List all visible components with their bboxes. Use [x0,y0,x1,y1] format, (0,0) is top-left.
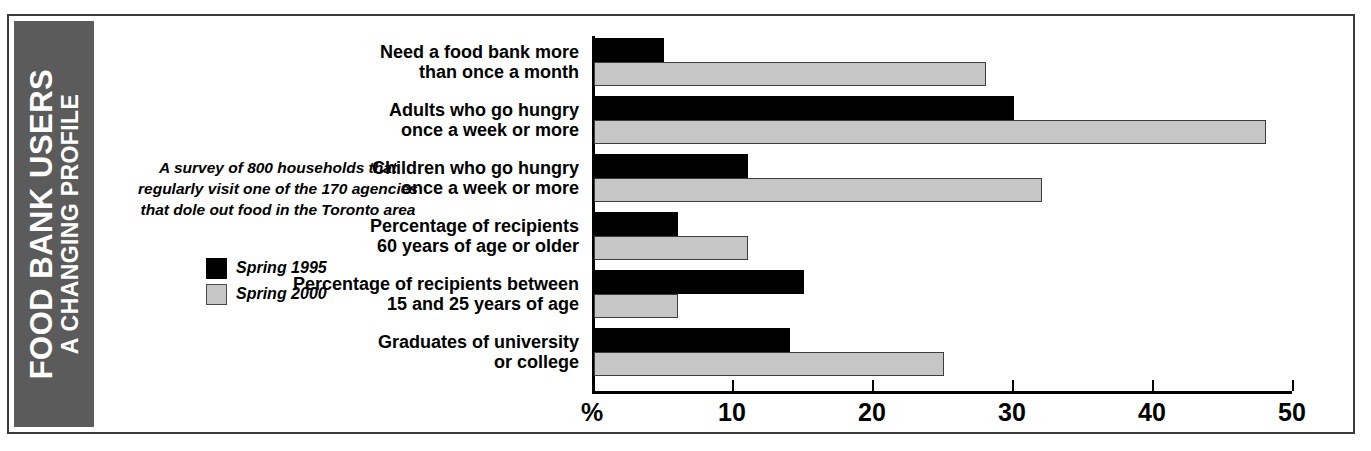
bar-spring-2000 [594,62,986,86]
x-tick-mark [1152,380,1154,391]
x-tick-label: % [581,398,603,427]
bar-spring-1995 [594,328,790,352]
plot-canvas: A survey of 800 households that regularl… [100,16,1352,432]
category-labels: Need a food bank more than once a monthA… [100,16,589,384]
bars-plot-area: %1020304050 [592,36,1292,391]
category-label: Percentage of recipients between 15 and … [293,274,579,315]
chart-subtitle: A CHANGING PROFILE [58,94,82,355]
bar-spring-2000 [594,120,1266,144]
x-tick-label: 50 [1278,398,1306,427]
rotated-title: FOOD BANK USERS A CHANGING PROFILE [14,21,94,427]
category-label: Percentage of recipients 60 years of age… [370,216,579,257]
bar-spring-2000 [594,294,678,318]
bar-spring-1995 [594,38,664,62]
x-tick-label: 30 [998,398,1026,427]
bar-spring-2000 [594,178,1042,202]
category-label: Children who go hungry once a week or mo… [372,158,579,199]
category-label: Graduates of university or college [378,332,579,373]
x-tick-mark [732,380,734,391]
x-tick-mark [1012,380,1014,391]
x-tick-label: 20 [858,398,886,427]
category-label: Adults who go hungry once a week or more [389,100,579,141]
title-band: FOOD BANK USERS A CHANGING PROFILE [14,21,94,427]
x-axis-line [592,391,1292,394]
category-label: Need a food bank more than once a month [380,42,579,83]
bar-spring-1995 [594,154,748,178]
chart-title: FOOD BANK USERS [26,69,58,380]
bar-chart: Need a food bank more than once a monthA… [100,16,1352,432]
bar-spring-2000 [594,352,944,376]
bar-spring-1995 [594,270,804,294]
x-tick-mark [872,380,874,391]
bar-spring-2000 [594,236,748,260]
bar-spring-1995 [594,96,1014,120]
x-tick-label: 10 [718,398,746,427]
x-tick-mark [1292,380,1294,391]
bar-spring-1995 [594,212,678,236]
x-tick-label: 40 [1138,398,1166,427]
figure: FOOD BANK USERS A CHANGING PROFILE A sur… [0,0,1371,451]
